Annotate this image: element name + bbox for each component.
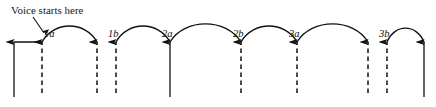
diagram-canvas	[0, 0, 436, 107]
beat-label-3b: 3b	[379, 29, 390, 40]
metrical-arrow-diagram: Voice starts here 1a1b2a2b3a3b	[0, 0, 436, 107]
span-connector	[297, 24, 368, 42]
annotation-leader	[33, 17, 44, 33]
voice-starts-here-annotation: Voice starts here	[11, 5, 84, 16]
beat-label-2a: 2a	[162, 29, 173, 40]
beat-label-3a: 3a	[289, 29, 300, 40]
arrow-stems	[14, 42, 424, 97]
beat-label-1a: 1a	[44, 29, 55, 40]
span-connectors	[14, 24, 424, 42]
span-connector	[387, 28, 424, 42]
span-connector	[170, 24, 241, 42]
beat-label-2b: 2b	[233, 29, 244, 40]
annotation-leader-line	[33, 17, 44, 33]
beat-label-1b: 1b	[108, 29, 119, 40]
